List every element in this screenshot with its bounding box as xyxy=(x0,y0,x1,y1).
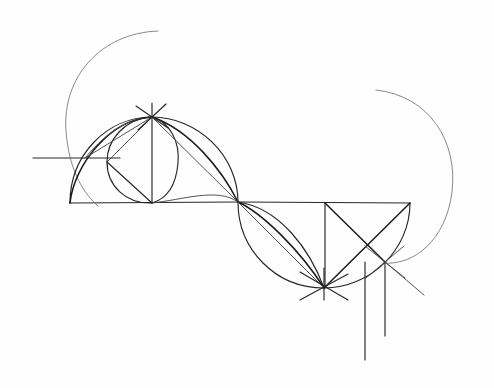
right-lens-chord xyxy=(238,202,324,288)
chord-apex-to-left-ray-end xyxy=(85,117,152,158)
chord-inner-left-to-base xyxy=(107,162,152,203)
geometric-construction-figure xyxy=(0,0,494,388)
left-inner-circle-left-half xyxy=(107,117,152,203)
baseline-group xyxy=(33,158,410,203)
right-triangle-group xyxy=(324,203,410,288)
left-semicircle xyxy=(70,117,238,203)
lower-star-group xyxy=(300,268,348,300)
baseline-right-segment xyxy=(238,202,410,203)
outer-arcs-group xyxy=(66,31,453,263)
plumb-lines-group xyxy=(365,262,424,360)
chord-apex-to-center xyxy=(152,117,238,202)
right-diagonal-upper-left xyxy=(325,203,385,262)
large-arc-right xyxy=(376,90,453,263)
drawing-canvas xyxy=(0,0,494,388)
lower-right-diagonal-ray xyxy=(385,262,424,295)
